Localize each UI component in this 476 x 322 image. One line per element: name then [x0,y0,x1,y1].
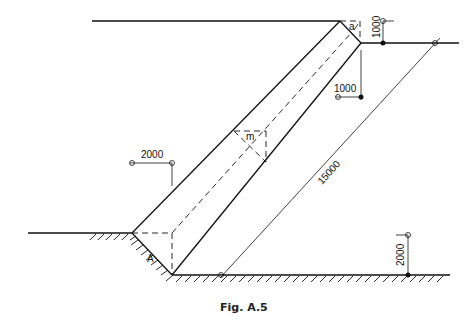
dim-top-right-height: 1000 [371,15,382,38]
slope-embankment-diagram: a m A 1000 1000 2000 15000 2000 [0,0,476,322]
dim-left-offset: 2000 [141,149,164,160]
dim-slope-length: 15000 [315,158,342,186]
block-centerline [172,32,352,233]
figure-caption: Fig. A.5 [220,301,268,314]
dim-slope-line [220,38,440,278]
label-a: a [349,21,355,32]
dim-bottom-right-height: 2000 [395,243,406,266]
label-m: m [246,131,254,142]
dim-marker-icon [359,95,364,100]
ground-hatching-bottom [176,276,443,282]
dim-right-offset: 1000 [334,83,357,94]
dim-marker-icon [381,41,386,46]
block-upper-edge [132,21,340,233]
a-arrow-icon [354,24,358,30]
ground-hatching-left [90,234,136,240]
